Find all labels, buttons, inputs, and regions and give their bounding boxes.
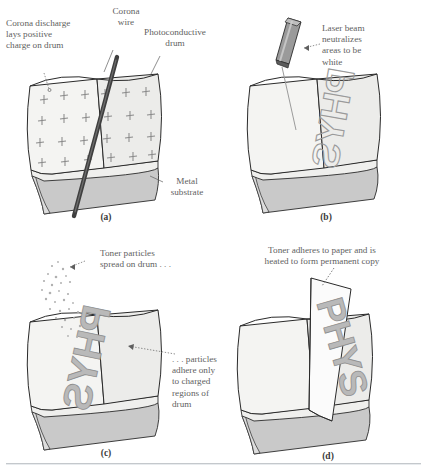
panel-label-c: (c) (86, 448, 126, 458)
panel-d-illustration: PHYS (214, 236, 427, 472)
panel-label-d: (d) (308, 451, 348, 461)
corona-wire-note: Corona wire (100, 6, 152, 28)
panel-d: PHYS Toner adheres to paper and is heate… (214, 236, 427, 472)
panel-c: PHYS (0, 236, 213, 472)
toner-adheres-note: Toner adheres to paper and is heated to … (222, 245, 422, 267)
laser-device-b (276, 18, 301, 68)
footer-rule-highlight (6, 464, 421, 465)
toner-particles-note: Toner particles spread on drum . . . (100, 248, 204, 270)
laser-leader-arrow-b (304, 45, 309, 51)
panel-label-b: (b) (306, 212, 346, 222)
toner-leader-arrow-c (70, 264, 75, 270)
laser-beam-note: Laser beam neutralizes areas to be white (322, 23, 408, 68)
metal-substrate-note: Metal substrate (163, 176, 211, 198)
drum-face-left-a (27, 79, 104, 174)
corona-discharge-note: Corona discharge lays positive charge on… (6, 18, 106, 52)
panel-a: Corona discharge lays positive charge on… (0, 0, 213, 236)
drum-face-left-d (237, 319, 314, 414)
xerography-figure: Corona discharge lays positive charge on… (0, 0, 427, 472)
panel-b: PHYS Laser beam neutralizes areas to be … (214, 0, 427, 236)
photoconductive-drum-note: Photoconductive drum (136, 27, 214, 49)
panel-label-a: (a) (86, 212, 126, 222)
